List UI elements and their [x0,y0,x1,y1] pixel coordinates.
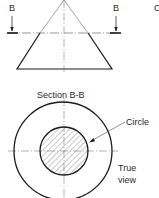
section-label-left: B [9,3,15,13]
cone-upper-left-edge [40,0,64,33]
arrow-down-icon [114,27,117,32]
leader-arrow-icon [89,138,95,143]
section-title: Section B-B [37,90,85,100]
hatched-section-circle [40,127,88,175]
arrow-down-icon [10,27,13,32]
cone-elevation [7,0,121,72]
callout-true-view-line2: view [118,175,136,185]
callout-circle-label: Circle [126,117,149,127]
circle-leader-line [91,122,125,141]
section-label-right: B [113,3,119,13]
partial-label-right: C [154,3,159,13]
section-view [8,98,125,198]
callout-true-view-line1: True [118,163,136,173]
cone-upper-right-edge [64,0,88,33]
cone-frustum-outline [17,33,112,69]
